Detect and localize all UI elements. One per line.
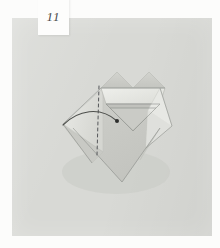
paper-top-peak-right: [133, 72, 165, 88]
fold-arrow-endpoint-dot: [115, 119, 119, 123]
origami-figure: [0, 0, 220, 248]
step-number-tab: 11: [38, 0, 69, 35]
origami-step-image: 11: [0, 0, 220, 248]
origami-paper-shape: [62, 72, 172, 194]
paper-top-peak-left: [101, 72, 133, 88]
step-number-label: 11: [46, 10, 60, 23]
